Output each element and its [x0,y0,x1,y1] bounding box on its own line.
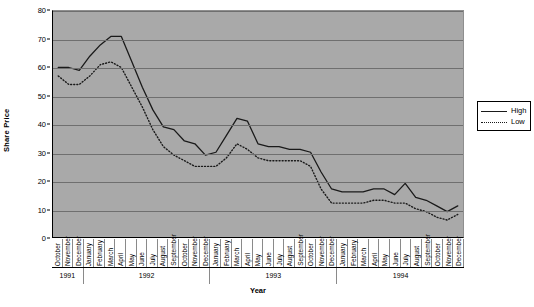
legend-item-high: High [481,105,526,116]
x-axis-tick-label: May [379,239,390,267]
x-axis-tick-label: February [94,239,105,267]
x-axis-tick-label: March [105,239,116,267]
x-axis-month-text: January [212,243,219,266]
x-axis-tick-label: September [168,239,179,267]
x-axis-month-text: August [159,246,166,266]
x-axis-month-text: July [402,254,409,266]
x-axis-tick-label: May [126,239,137,267]
x-axis-month-text: July [275,254,282,266]
x-axis-tick-label: July [401,239,412,267]
gridline [53,182,463,183]
y-axis-tick-label: 40 [38,120,46,129]
x-axis-year-label: 1994 [337,268,464,284]
x-axis-tick-label: October [179,239,190,267]
x-axis-month-text: April [117,253,124,266]
x-axis-month-text: March [106,248,113,266]
x-axis-tick-label: August [284,239,295,267]
x-axis-tick-label: September [422,239,433,267]
x-axis-month-text: February [96,240,103,266]
x-axis-month-text: June [391,252,398,266]
chart-legend: High Low [477,101,531,131]
x-axis-month-text: January [85,243,92,266]
y-axis-tick-mark [47,152,50,153]
y-axis-tick-label: 30 [38,148,46,157]
x-axis-tick-label: January [210,239,221,267]
gridline [53,125,463,126]
x-axis-month-text: August [412,246,419,266]
x-axis-tick-label: August [158,239,169,267]
x-axis-tick-label: March [232,239,243,267]
x-axis-tick-label: October [306,239,317,267]
x-axis-tick-label: May [253,239,264,267]
legend-swatch-dotted-line-icon [481,118,507,126]
x-axis-tick-label: December [200,239,211,267]
x-axis-tick-label: September [295,239,306,267]
x-axis-tick-label: December [453,239,464,267]
x-axis-month-text: December [328,236,335,266]
x-axis-month-text: November [64,236,71,266]
x-axis-month-text: November [317,236,324,266]
legend-label: High [511,106,526,115]
y-axis-tick-mark [47,238,50,239]
plot-area [52,10,464,238]
x-axis-tick-label: November [316,239,327,267]
chart-container: Share Price 01020304050607080 OctoberNov… [0,0,534,307]
y-axis-tick-mark [47,209,50,210]
y-axis-tick-label: 60 [38,63,46,72]
x-axis-tick-label: November [189,239,200,267]
x-axis-month-text: August [286,246,293,266]
x-axis-year-label: 1992 [84,268,211,284]
y-axis-tick-label: 80 [38,6,46,15]
x-axis-month-text: April [243,253,250,266]
y-axis-tick-label: 50 [38,91,46,100]
gridline [53,11,463,12]
y-axis-tick-label: 0 [42,234,46,243]
x-axis-month-text: November [191,236,198,266]
gridline [53,68,463,69]
x-axis-month-text: June [138,252,145,266]
x-axis-tick-label: July [147,239,158,267]
x-axis-month-text: December [455,236,462,266]
x-axis-month-text: October [180,243,187,266]
x-axis-month-text: February [222,240,229,266]
x-axis-tick-label: February [348,239,359,267]
x-axis-month-text: July [148,254,155,266]
legend-label: Low [511,117,525,126]
x-axis-tick-label: December [327,239,338,267]
x-axis-month-labels: OctoberNovemberDecemberJanuaryFebruaryMa… [52,239,464,268]
x-axis-month-text: December [201,236,208,266]
x-axis-tick-label: October [52,239,63,267]
x-axis-month-text: October [53,243,60,266]
x-axis-tick-label: February [221,239,232,267]
x-axis-tick-label: April [242,239,253,267]
x-axis-month-text: May [381,254,388,266]
x-axis-tick-label: March [358,239,369,267]
gridline [53,97,463,98]
x-axis-tick-label: July [274,239,285,267]
x-axis-tick-label: June [137,239,148,267]
x-axis-tick-label: June [390,239,401,267]
legend-item-low: Low [481,116,526,127]
x-axis-month-text: October [307,243,314,266]
x-axis-month-text: May [254,254,261,266]
x-axis-month-text: June [265,252,272,266]
x-axis-title: Year [52,286,464,295]
x-axis-month-text: December [74,236,81,266]
y-axis-tick-mark [47,95,50,96]
x-axis-month-text: February [349,240,356,266]
x-axis-month-text: April [370,253,377,266]
series-line-low [58,62,457,220]
x-axis-month-text: October [434,243,441,266]
series-canvas [53,11,463,237]
x-axis-month-text: March [360,248,367,266]
x-axis-month-text: September [423,234,430,266]
x-axis-tick-label: November [443,239,454,267]
x-axis-month-text: September [169,234,176,266]
y-axis-tick-mark [47,181,50,182]
y-axis-tick-label: 10 [38,205,46,214]
x-axis-tick-label: April [115,239,126,267]
x-axis-tick-label: December [73,239,84,267]
series-line-high [58,36,457,211]
x-axis-tick-label: August [411,239,422,267]
x-axis-month-text: May [127,254,134,266]
